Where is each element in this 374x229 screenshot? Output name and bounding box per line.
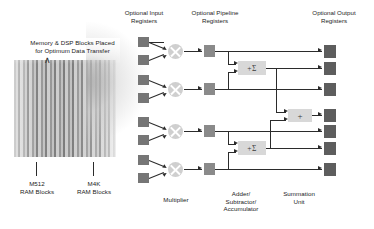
input-register[interactable]	[138, 37, 149, 47]
wire-adder-to-summation	[270, 120, 271, 148]
input-register[interactable]	[138, 155, 149, 165]
column-header-output-registers: Optional Output Registers	[300, 9, 368, 25]
input-register[interactable]	[138, 117, 149, 127]
m512-leader-line	[36, 162, 37, 176]
multiplier-icon[interactable]	[168, 82, 183, 97]
pipeline-register[interactable]	[204, 125, 215, 137]
multiplier-icon[interactable]	[168, 124, 183, 139]
arrow-icon	[198, 48, 202, 52]
arrow-icon	[318, 48, 322, 52]
arrow-icon	[318, 65, 322, 69]
dsp-block-diagram: Memory & DSP Blocks Placed for Optimum D…	[0, 0, 374, 229]
arrow-icon	[318, 128, 322, 132]
arrow-icon	[198, 128, 202, 132]
wire-pipeline-bypass	[215, 169, 322, 170]
adder-subtractor-accumulator-label: Adder/ Subtractor/ Accumulator	[213, 190, 269, 213]
output-register[interactable]	[324, 83, 336, 96]
output-register[interactable]	[324, 109, 336, 122]
arrow-icon	[198, 86, 202, 90]
arrow-icon	[162, 53, 168, 59]
wire-pipeline-bypass	[215, 89, 322, 90]
output-register[interactable]	[324, 125, 336, 138]
m4k-ram-blocks-label: M4K RAM Blocks	[66, 180, 122, 195]
wire-pipeline-bypass	[215, 131, 322, 132]
memory-dsp-caption: Memory & DSP Blocks Placed for Optimum D…	[10, 39, 135, 54]
caret-up-icon: ∧	[44, 55, 51, 65]
input-register[interactable]	[138, 93, 149, 103]
wire-branch-down	[228, 131, 229, 144]
multiplier-icon[interactable]	[168, 44, 183, 59]
arrow-icon	[198, 166, 202, 170]
wire-adder-to-summation	[276, 68, 277, 112]
input-register[interactable]	[138, 75, 149, 85]
wire-pipeline-bypass	[215, 51, 322, 52]
adder-subtractor-accumulator-block[interactable]: +Σ	[238, 141, 266, 155]
summation-unit-label: Summation Unit	[272, 190, 326, 205]
wire-adder-output	[266, 68, 322, 69]
column-header-input-registers: Optional Input Registers	[113, 9, 175, 25]
arrow-icon	[318, 112, 322, 116]
multiplier-icon[interactable]	[168, 162, 183, 177]
m512-ram-blocks-label: M512 RAM Blocks	[8, 180, 66, 195]
arrow-icon	[318, 86, 322, 90]
output-register[interactable]	[324, 45, 336, 58]
output-register[interactable]	[324, 163, 336, 176]
output-register[interactable]	[324, 142, 336, 155]
arrow-icon	[318, 166, 322, 170]
wire-branch-up	[228, 72, 229, 89]
input-register[interactable]	[138, 135, 149, 145]
arrow-icon	[162, 84, 168, 90]
input-register[interactable]	[138, 55, 149, 65]
summation-unit-block[interactable]: +	[288, 109, 312, 122]
wire-adder-output	[266, 148, 322, 149]
m4k-leader-line	[93, 162, 94, 176]
wire-branch-down	[228, 51, 229, 64]
column-header-pipeline-registers: Optional Pipeline Registers	[180, 9, 250, 25]
arrow-icon	[318, 145, 322, 149]
pipeline-register[interactable]	[204, 163, 215, 175]
arrow-icon	[162, 91, 168, 97]
arrow-icon	[162, 171, 168, 177]
input-register[interactable]	[138, 173, 149, 183]
arrow-icon	[162, 46, 168, 52]
arrow-icon	[162, 126, 168, 132]
wire-branch-up	[228, 152, 229, 169]
output-register[interactable]	[324, 62, 336, 75]
multiplier-label: Multiplier	[150, 196, 202, 204]
arrow-icon	[162, 164, 168, 170]
pipeline-register[interactable]	[204, 45, 215, 57]
pipeline-register[interactable]	[204, 83, 215, 95]
adder-subtractor-accumulator-block[interactable]: +Σ	[238, 61, 266, 75]
arrow-icon	[162, 133, 168, 139]
